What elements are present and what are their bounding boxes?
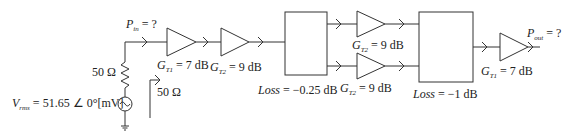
amplifier-3-upper-icon bbox=[357, 11, 385, 37]
amplifier-5-icon bbox=[500, 33, 528, 61]
input-impedance-label: 50 Ω bbox=[157, 86, 181, 98]
amp3-upper-gain-label: GT2 = 9 dB bbox=[352, 39, 404, 54]
amp5-gain-label: GT1 = 7 dB bbox=[481, 65, 533, 80]
amplifier-3-lower-icon bbox=[357, 53, 385, 79]
amplifier-1-icon bbox=[167, 28, 196, 56]
pin-label: Pin = ? bbox=[126, 18, 157, 33]
combiner-loss-label: Loss = −1 dB bbox=[413, 88, 478, 100]
splitter-block bbox=[285, 12, 327, 75]
resistor-icon bbox=[121, 62, 129, 88]
amplifier-2-icon bbox=[221, 28, 249, 56]
amp2-gain-label: GT2 = 9 dB bbox=[210, 61, 262, 76]
source-voltage-label: Vrms = 51.65 ∠ 0°[mV] bbox=[12, 97, 123, 112]
combiner-block bbox=[419, 12, 473, 82]
pout-label: Pout = ? bbox=[527, 27, 561, 42]
source-resistance-label: 50 Ω bbox=[92, 66, 116, 78]
amp3-lower-gain-label: GT2 = 9 dB bbox=[340, 82, 392, 97]
amp1-gain-label: GT1 = 7 dB bbox=[157, 59, 209, 74]
splitter-loss-label: Loss = −0.25 dB bbox=[258, 84, 338, 96]
